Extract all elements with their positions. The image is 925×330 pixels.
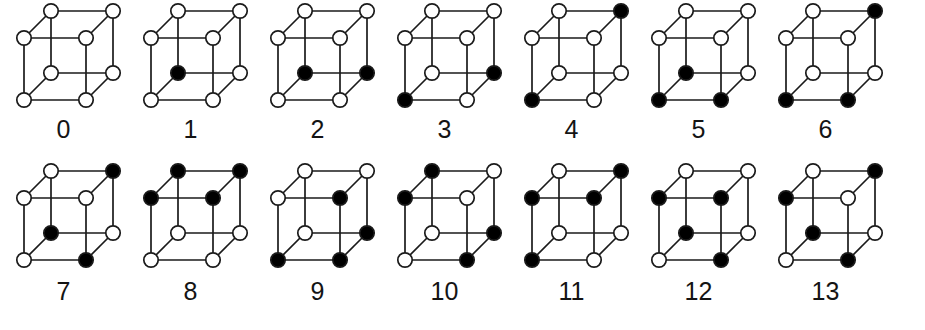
cube-cell-1: 1 xyxy=(127,0,254,160)
cube-cell-4: 4 xyxy=(508,0,635,160)
vertex-back-bottom-right-empty xyxy=(613,226,627,240)
vertex-front-top-right-empty xyxy=(78,191,92,205)
cube-row-bottom: 78910111213 xyxy=(0,160,925,330)
cube-edges xyxy=(151,11,240,100)
vertex-back-bottom-left-empty xyxy=(551,66,565,80)
vertex-back-top-left-empty xyxy=(43,164,57,178)
vertex-front-top-right-empty xyxy=(205,31,219,45)
vertex-back-bottom-right-empty xyxy=(867,226,881,240)
vertex-back-top-right-filled xyxy=(613,4,627,18)
vertex-front-top-right-empty xyxy=(840,191,854,205)
vertex-front-bottom-left-empty xyxy=(143,253,157,267)
vertex-back-top-right-empty xyxy=(359,4,373,18)
cube-edges xyxy=(532,171,621,260)
cube-label: 3 xyxy=(438,117,452,142)
vertex-back-bottom-right-empty xyxy=(232,226,246,240)
vertex-back-bottom-right-empty xyxy=(105,66,119,80)
vertex-front-bottom-right-filled xyxy=(78,253,92,267)
cube-edges xyxy=(405,171,494,260)
cube-label: 5 xyxy=(692,117,706,142)
cube-label: 11 xyxy=(559,279,585,304)
vertex-front-bottom-right-empty xyxy=(78,93,92,107)
cube-edges xyxy=(532,11,621,100)
cube-row-top: 0123456 xyxy=(0,0,925,160)
vertex-back-top-left-empty xyxy=(805,4,819,18)
vertex-front-top-left-empty xyxy=(143,31,157,45)
cube-label: 6 xyxy=(819,117,833,142)
cube-edges xyxy=(278,171,367,260)
cube-label: 7 xyxy=(57,279,71,304)
cube-diagram-8 xyxy=(131,160,251,272)
cube-label: 9 xyxy=(311,279,325,304)
vertex-back-bottom-right-empty xyxy=(105,226,119,240)
cube-label: 12 xyxy=(685,279,713,304)
vertex-back-top-left-empty xyxy=(297,164,311,178)
vertex-back-top-left-empty xyxy=(170,4,184,18)
vertex-front-bottom-left-empty xyxy=(397,253,411,267)
vertex-back-bottom-left-filled xyxy=(678,226,692,240)
vertex-back-bottom-left-empty xyxy=(424,66,438,80)
vertex-back-bottom-left-filled xyxy=(170,66,184,80)
vertex-back-top-right-empty xyxy=(232,4,246,18)
cube-cell-3: 3 xyxy=(381,0,508,160)
cube-cell-13: 13 xyxy=(762,160,889,330)
vertex-front-top-right-empty xyxy=(459,31,473,45)
vertex-front-top-right-empty xyxy=(459,191,473,205)
vertex-front-bottom-right-filled xyxy=(713,93,727,107)
cube-diagram-0 xyxy=(4,0,124,112)
vertex-front-bottom-left-filled xyxy=(524,253,538,267)
vertex-front-top-right-filled xyxy=(713,191,727,205)
vertex-back-top-left-empty xyxy=(297,4,311,18)
cube-edges xyxy=(405,11,494,100)
cube-cell-10: 10 xyxy=(381,160,508,330)
cube-edges xyxy=(151,171,240,260)
cube-diagram-7 xyxy=(4,160,124,272)
cube-cell-9: 9 xyxy=(254,160,381,330)
cube-label: 4 xyxy=(565,117,579,142)
vertex-back-bottom-left-empty xyxy=(424,226,438,240)
cube-label: 2 xyxy=(311,117,325,142)
vertex-front-top-left-empty xyxy=(16,31,30,45)
cube-cell-6: 6 xyxy=(762,0,889,160)
cube-cell-11: 11 xyxy=(508,160,635,330)
vertex-back-bottom-left-filled xyxy=(678,66,692,80)
vertex-front-bottom-left-filled xyxy=(524,93,538,107)
vertex-front-bottom-right-empty xyxy=(205,253,219,267)
cube-diagram-11 xyxy=(512,160,632,272)
vertex-back-bottom-right-empty xyxy=(867,66,881,80)
cube-edges xyxy=(659,171,748,260)
vertex-front-top-left-empty xyxy=(397,31,411,45)
cube-label: 10 xyxy=(431,279,459,304)
vertex-front-top-right-empty xyxy=(586,31,600,45)
vertex-front-bottom-right-filled xyxy=(459,253,473,267)
vertex-back-top-left-empty xyxy=(805,164,819,178)
cube-diagram-3 xyxy=(385,0,505,112)
vertex-back-top-left-empty xyxy=(678,4,692,18)
vertex-front-top-left-empty xyxy=(16,191,30,205)
cube-edges xyxy=(24,11,113,100)
vertex-front-top-left-filled xyxy=(524,191,538,205)
cube-diagram-12 xyxy=(639,160,759,272)
vertex-front-top-right-filled xyxy=(332,191,346,205)
vertex-front-top-left-filled xyxy=(651,191,665,205)
vertex-back-top-right-empty xyxy=(486,4,500,18)
vertex-back-top-left-empty xyxy=(551,4,565,18)
cube-configuration-figure: 0123456 78910111213 xyxy=(0,0,925,330)
cube-edges xyxy=(278,11,367,100)
vertex-back-bottom-right-filled xyxy=(359,66,373,80)
vertex-front-bottom-left-empty xyxy=(270,93,284,107)
vertex-back-bottom-right-filled xyxy=(486,226,500,240)
cube-label: 1 xyxy=(184,117,198,142)
cube-cell-12: 12 xyxy=(635,160,762,330)
cube-diagram-5 xyxy=(639,0,759,112)
vertex-front-bottom-right-empty xyxy=(459,93,473,107)
vertex-back-bottom-left-empty xyxy=(805,66,819,80)
cube-edges xyxy=(659,11,748,100)
vertex-back-top-right-filled xyxy=(613,164,627,178)
vertex-front-bottom-left-empty xyxy=(778,253,792,267)
cube-label: 0 xyxy=(57,117,71,142)
vertex-back-top-right-filled xyxy=(867,164,881,178)
cube-diagram-4 xyxy=(512,0,632,112)
vertex-front-top-left-filled xyxy=(397,191,411,205)
vertex-front-bottom-right-empty xyxy=(586,93,600,107)
